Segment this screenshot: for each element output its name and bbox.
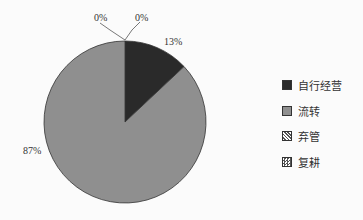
pie-slices [44,41,206,203]
legend-item-abandoned: 弃管 [282,130,342,142]
swatch-dark-icon [282,80,292,90]
legend-item-self-operated: 自行经营 [282,79,342,91]
label-abandoned: 0% [94,12,107,23]
legend-label: 自行经营 [298,77,342,93]
legend-item-transferred: 流转 [282,105,342,117]
label-recultivated: 0% [135,12,148,23]
swatch-gray-icon [282,106,292,116]
swatch-hatch-icon [282,131,292,141]
leader-line-recultivated [125,22,140,40]
label-transferred: 87% [23,145,41,156]
legend-item-recultivated: 复耕 [282,156,342,168]
swatch-crosshatch-icon [282,157,292,167]
legend: 自行经营 流转 弃管 复耕 [282,79,342,181]
legend-label: 流转 [298,103,320,119]
legend-label: 复耕 [298,154,320,170]
label-self-operated: 13% [164,36,182,47]
legend-label: 弃管 [298,128,320,144]
leader-line-abandoned [100,23,125,40]
